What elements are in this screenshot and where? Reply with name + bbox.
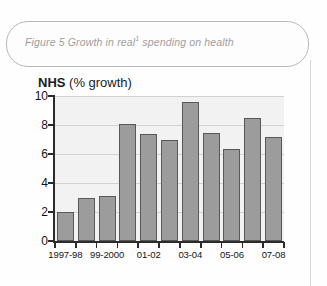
y-axis-tick [48, 124, 55, 126]
chart-title-bold: NHS [38, 75, 65, 90]
x-axis-tick-label: 05-06 [220, 249, 244, 260]
x-axis-tick [283, 242, 285, 248]
x-axis-tick [96, 242, 98, 248]
x-axis-tick-label: 1997-98 [48, 249, 82, 260]
x-axis-tick [179, 242, 181, 248]
bar [78, 198, 95, 242]
bar [203, 133, 220, 241]
bar [223, 149, 240, 241]
x-axis-tick-label: 01-02 [137, 249, 161, 260]
figure-caption-prefix: Figure 5 Growth in real [25, 36, 135, 48]
bar-chart: 0246810 1997-9899-200001-0203-0405-0607-… [26, 96, 296, 268]
y-axis-tick [48, 153, 55, 155]
x-axis-tick [137, 242, 139, 248]
chart-title: NHS (% growth) [38, 75, 132, 90]
x-axis-tick-label: 99-2000 [90, 249, 124, 260]
y-axis-line [53, 96, 55, 243]
y-axis-tick-label: 10 [35, 90, 48, 102]
x-axis-tick [158, 242, 160, 248]
y-axis-tick [48, 182, 55, 184]
figure-caption-suffix: spending on health [139, 36, 234, 48]
x-axis-tick-label: 07-08 [262, 249, 286, 260]
y-axis-tick-label: 6 [41, 148, 48, 160]
x-axis-tick [242, 242, 244, 248]
y-axis-tick [48, 95, 55, 97]
plot-area [55, 96, 284, 241]
y-axis-labels: 0246810 [26, 96, 48, 242]
bar [57, 212, 74, 241]
bar [161, 140, 178, 242]
bar [119, 124, 136, 241]
x-axis-tick [200, 242, 202, 248]
x-axis-tick-label: 03-04 [178, 249, 202, 260]
bar [244, 118, 261, 241]
y-axis-tick [48, 211, 55, 213]
y-axis-tick-label: 2 [41, 206, 48, 218]
chart-title-regular: (% growth) [65, 75, 131, 90]
x-axis-tick [262, 242, 264, 248]
x-axis-tick [221, 242, 223, 248]
x-axis-tick [117, 242, 119, 248]
page-rule-divider [310, 60, 311, 286]
y-axis-tick-label: 8 [41, 119, 48, 131]
bar [140, 134, 157, 241]
x-axis-tick [54, 242, 56, 248]
x-axis-tick [75, 242, 77, 248]
bar [99, 196, 116, 241]
bar [265, 137, 282, 241]
figure-caption: Figure 5 Growth in real1 spending on hea… [25, 35, 234, 48]
x-axis-line [53, 241, 284, 243]
y-axis-tick-label: 4 [41, 177, 48, 189]
y-axis-tick-label: 0 [41, 235, 48, 247]
bar [182, 102, 199, 241]
figure-caption-card: Figure 5 Growth in real1 spending on hea… [6, 21, 309, 67]
gridline [55, 96, 284, 97]
